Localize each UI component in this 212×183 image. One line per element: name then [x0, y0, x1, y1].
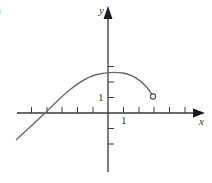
y-axis-arrow-icon — [104, 6, 113, 19]
panel-label: ) — [0, 3, 1, 19]
y-tick-label-1: 1 — [98, 91, 104, 103]
function-graph: ) x y 1 1 — [0, 0, 212, 183]
x-tick-label-1: 1 — [121, 114, 127, 126]
open-endpoint-marker — [150, 94, 155, 99]
y-axis-label: y — [99, 4, 104, 16]
y-ticks — [108, 67, 114, 145]
x-axis-label: x — [199, 115, 204, 127]
graph-canvas — [0, 0, 212, 183]
function-curve — [16, 72, 153, 140]
